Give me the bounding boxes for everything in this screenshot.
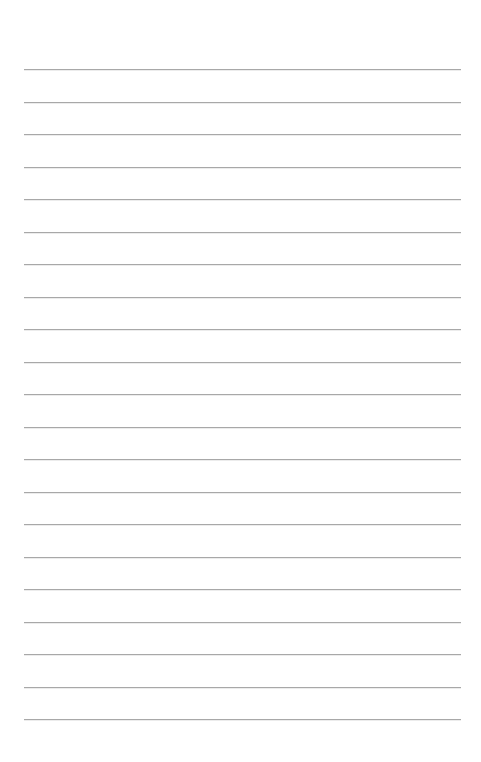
ruled-line: [24, 264, 461, 265]
ruled-line: [24, 69, 461, 70]
ruled-line: [24, 687, 461, 688]
ruled-line: [24, 232, 461, 233]
ruled-line: [24, 622, 461, 623]
ruled-line: [24, 199, 461, 200]
lined-paper-page: [0, 0, 481, 762]
ruled-line: [24, 719, 461, 720]
ruled-line: [24, 102, 461, 103]
ruled-line: [24, 654, 461, 655]
ruled-line: [24, 492, 461, 493]
ruled-line: [24, 524, 461, 525]
ruled-line: [24, 297, 461, 298]
ruled-line: [24, 167, 461, 168]
ruled-line: [24, 589, 461, 590]
ruled-line: [24, 362, 461, 363]
ruled-line: [24, 557, 461, 558]
ruled-line: [24, 329, 461, 330]
ruled-line: [24, 134, 461, 135]
ruled-line: [24, 427, 461, 428]
ruled-line: [24, 394, 461, 395]
ruled-line: [24, 459, 461, 460]
